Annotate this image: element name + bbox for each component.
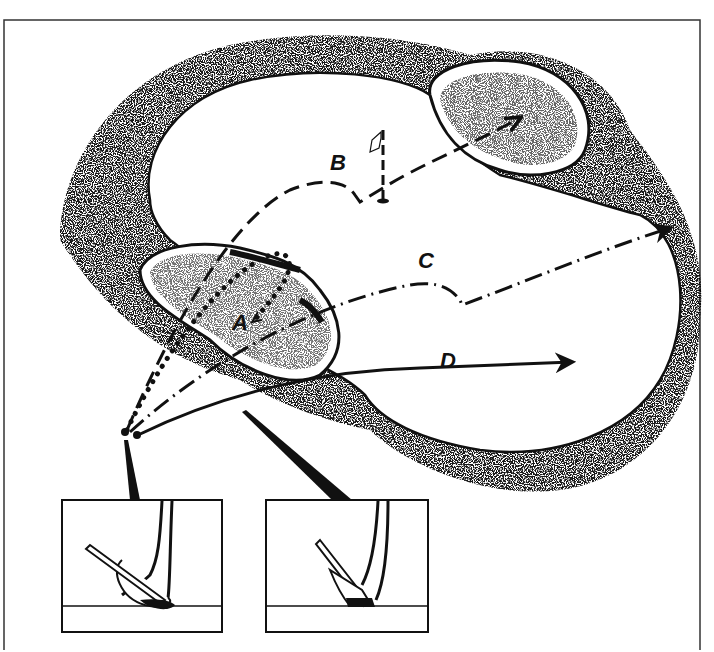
label-a: A xyxy=(231,310,248,335)
diagram-canvas: B C A D xyxy=(0,0,714,652)
pointer-wedge-left xyxy=(124,440,140,500)
pointer-wedge-right xyxy=(242,410,352,500)
inset-square-face xyxy=(266,500,428,632)
inset-open-face xyxy=(62,500,222,632)
label-d: D xyxy=(440,348,456,373)
bunker-shot-diagram: B C A D xyxy=(0,0,714,652)
label-c: C xyxy=(418,248,435,273)
label-b: B xyxy=(330,150,346,175)
